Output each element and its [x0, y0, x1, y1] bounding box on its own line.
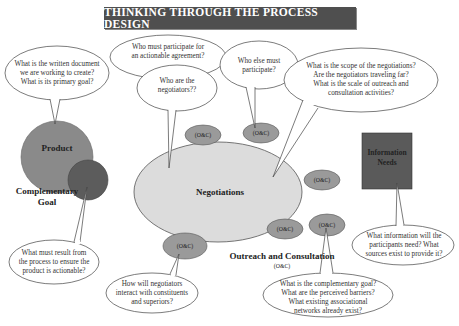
tail-information	[396, 183, 404, 226]
oc-label: (O&C)	[167, 243, 203, 249]
bubble-result-text: What must result from the process to ens…	[14, 249, 94, 276]
complementary-goal-label: Complementary Goal	[12, 186, 82, 208]
tail-product	[50, 99, 60, 124]
bubble-negotiators-text: Who are the negotiators??	[147, 77, 207, 95]
diagram-title: THINKING THROUGH THE PROCESS DESIGN	[104, 7, 356, 29]
negotiations-label: Negotiations	[175, 187, 265, 197]
oc-label: (O&C)	[309, 222, 345, 228]
information-needs-label: Information Needs	[362, 148, 412, 168]
tail-else	[246, 87, 255, 128]
bubble-else-text: Who else must participate?	[229, 57, 289, 75]
bubble-participate-text: Who must participate for an actionable a…	[122, 43, 214, 61]
oc-label: (O&C)	[304, 177, 340, 183]
product-label: Product	[27, 143, 87, 153]
bubble-interact-text: How will negotiators interact with const…	[110, 280, 194, 307]
tail-scope	[273, 100, 318, 177]
bubble-complementary-text: What is the complementary goal? What are…	[270, 280, 386, 316]
oc-label: (O&C)	[185, 132, 221, 138]
oc-label: (O&C)	[243, 130, 279, 136]
outreach-label: Outreach and Consultation	[212, 251, 352, 261]
bubble-information-text: What information will the participants n…	[358, 232, 450, 259]
bubble-product-text: What is the written document we are work…	[8, 60, 106, 87]
oc-label: (O&C)	[267, 226, 303, 232]
outreach-abbr: (O&C)	[262, 263, 302, 269]
bubble-scope-text: What is the scope of the negotiations? A…	[296, 62, 426, 98]
